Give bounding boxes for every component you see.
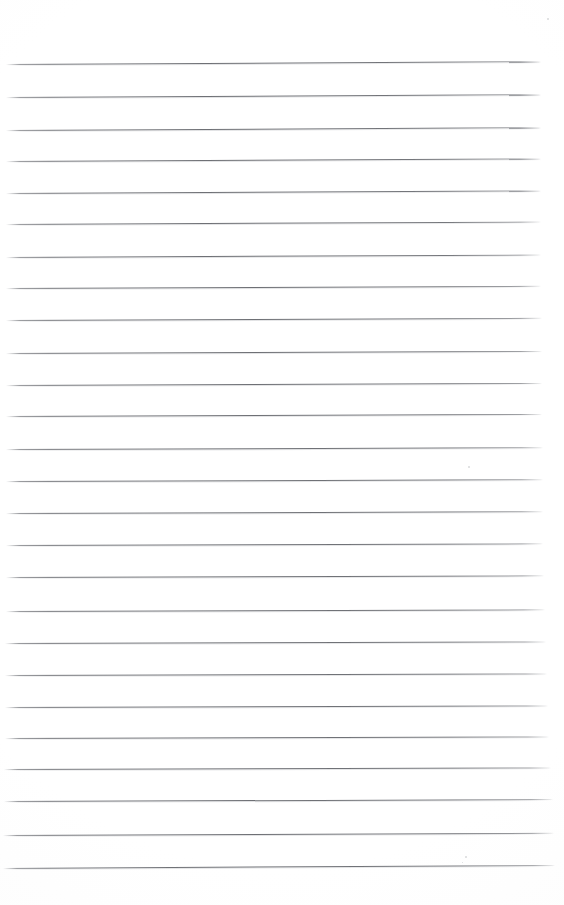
ruled-paper-scan bbox=[0, 0, 564, 905]
paper-rule-line bbox=[6, 94, 541, 98]
paper-rule-line bbox=[6, 447, 543, 450]
paper-rule-line bbox=[6, 414, 542, 417]
paper-rule-line bbox=[6, 479, 543, 482]
paper-rule-line bbox=[5, 673, 547, 676]
paper-rule-line bbox=[6, 543, 543, 546]
paper-rule-line bbox=[6, 318, 542, 321]
paper-rule-line bbox=[5, 641, 546, 644]
paper-rule-line bbox=[6, 222, 541, 225]
paper-rule-line bbox=[6, 511, 543, 514]
paper-rule-line bbox=[5, 705, 548, 708]
paper-rule-line bbox=[6, 127, 541, 131]
paper-rule-line bbox=[6, 383, 542, 386]
paper-rule-line bbox=[3, 865, 555, 869]
paper-rule-line bbox=[6, 255, 541, 258]
rule-line-layer bbox=[0, 0, 564, 905]
paper-rule-line bbox=[6, 609, 545, 612]
paper-rule-line bbox=[6, 286, 541, 289]
paper-rule-line bbox=[6, 575, 544, 578]
paper-rule-line bbox=[4, 767, 551, 770]
paper-rule-line bbox=[5, 736, 549, 739]
paper-rule-line bbox=[3, 833, 554, 836]
paper-rule-line bbox=[6, 158, 541, 162]
paper-rule-line bbox=[6, 61, 541, 65]
paper-rule-line bbox=[4, 799, 553, 802]
paper-rule-line bbox=[6, 351, 542, 354]
paper-rule-line bbox=[6, 190, 541, 194]
